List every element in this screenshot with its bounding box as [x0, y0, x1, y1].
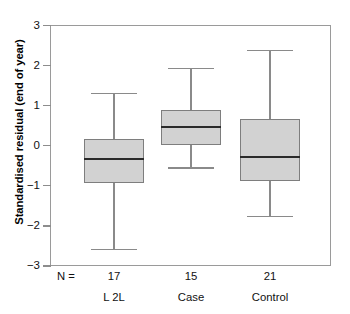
- whisker-upper-cap: [247, 50, 293, 51]
- whisker-upper-cap: [168, 68, 214, 69]
- sample-count-label: 21: [240, 270, 300, 282]
- y-axis-tick-label: −3: [0, 260, 40, 272]
- whisker-upper-stem: [190, 68, 191, 111]
- sample-count-label: 15: [161, 270, 221, 282]
- group-category-label: L 2L: [74, 291, 154, 303]
- box-plot-chart: Standardised residual (end of year) 3210…: [0, 0, 350, 314]
- y-axis-tick-label: 3: [0, 20, 40, 32]
- y-axis-tick-label: 2: [0, 60, 40, 72]
- whisker-lower-cap: [168, 167, 214, 168]
- group-category-label: Case: [151, 291, 231, 303]
- median-line: [161, 126, 221, 128]
- y-axis-tick-label: −1: [0, 180, 40, 192]
- median-line: [240, 156, 300, 158]
- y-axis-tick: [43, 185, 51, 186]
- whisker-upper-stem: [269, 50, 270, 119]
- whisker-upper-cap: [91, 93, 137, 94]
- group-category-label: Control: [230, 291, 310, 303]
- y-axis-tick: [43, 25, 51, 26]
- y-axis-tick-label: 0: [0, 140, 40, 152]
- y-axis-tick-label: 1: [0, 100, 40, 112]
- y-axis-tick-label: −2: [0, 220, 40, 232]
- y-axis-tick: [43, 65, 51, 66]
- box-iqr-rect: [240, 119, 300, 181]
- whisker-lower-stem: [269, 181, 270, 216]
- whisker-lower-cap: [91, 249, 137, 250]
- whisker-upper-stem: [113, 93, 114, 139]
- y-axis-tick: [43, 105, 51, 106]
- whisker-lower-cap: [247, 216, 293, 217]
- y-axis-tick: [43, 145, 51, 146]
- whisker-lower-stem: [113, 183, 114, 248]
- y-axis-tick: [43, 225, 51, 226]
- median-line: [84, 158, 144, 160]
- whisker-lower-stem: [190, 145, 191, 167]
- n-equals-label: N =: [57, 270, 75, 282]
- box-iqr-rect: [84, 139, 144, 183]
- sample-count-label: 17: [84, 270, 144, 282]
- y-axis-tick: [43, 265, 51, 266]
